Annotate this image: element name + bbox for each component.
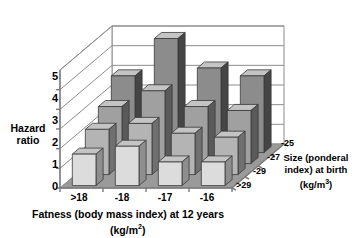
z-tick-25: -25 <box>281 138 294 148</box>
x-tick-16: -16 <box>190 192 224 203</box>
y-tick-0: 0 <box>44 180 58 192</box>
z-axis-title-line2: index) at birth <box>270 164 362 175</box>
x-tick-18: -18 <box>105 192 139 203</box>
y-tick-5: 5 <box>44 70 58 82</box>
z-axis-title-line1: Size (ponderal <box>270 152 362 163</box>
z-axis-unit-post: ) <box>329 179 332 190</box>
z-tick-29: -29 <box>253 166 266 176</box>
x-tick-17: -17 <box>148 192 182 203</box>
y-axis-title-line1: Hazard <box>0 122 56 134</box>
z-tick-gt29: >29 <box>236 180 251 190</box>
x-axis-title-line2: (kg/m2) <box>110 221 145 236</box>
z-axis-title-line3: (kg/m3) <box>270 176 362 190</box>
x-tick-gt18: >18 <box>62 192 96 203</box>
x-axis-unit-pre: (kg/m <box>110 224 138 236</box>
x-axis-title-line1: Fatness (body mass index) at 12 years <box>32 208 224 220</box>
y-axis-title-line2: ratio <box>0 134 56 146</box>
chart-figure: 5 4 3 2 1 0 Hazard ratio >18 -18 -17 -16… <box>0 0 362 238</box>
y-tick-1: 1 <box>44 158 58 170</box>
z-axis-unit-pre: (kg/m <box>300 179 325 190</box>
x-axis-unit-post: ) <box>142 224 146 236</box>
y-tick-4: 4 <box>44 92 58 104</box>
